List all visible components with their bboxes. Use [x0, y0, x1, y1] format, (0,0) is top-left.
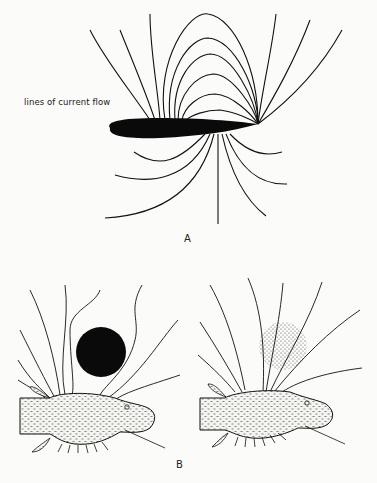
annotation-lines-of-current-flow: lines of current flow	[24, 97, 110, 107]
fish-b-left	[20, 387, 165, 453]
fish-body-silhouette	[109, 118, 258, 138]
panel-a-diagram	[90, 14, 342, 224]
panel-b-letter: B	[176, 459, 183, 470]
nonconducting-object	[76, 327, 126, 377]
panel-b-right-diagram	[198, 278, 362, 447]
panel-b-left-diagram	[18, 285, 180, 400]
panel-a-letter: A	[184, 233, 191, 244]
